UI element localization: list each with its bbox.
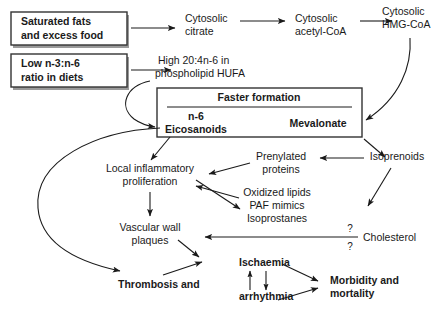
box-low-ratio-line1: Low n-3:n-6 <box>21 57 80 69</box>
box-saturated-fats-line2: and excess food <box>21 29 103 41</box>
node-morbidity-line2: mortality <box>330 287 375 299</box>
node-vascular-wall-plaques: Vascular wall plaques <box>119 221 180 246</box>
node-oxidized-lipids-line3: Isoprostanes <box>247 212 307 224</box>
node-arrhythmia-label: arrhythmia <box>239 290 293 302</box>
node-morbidity-mortality: Morbidity and mortality <box>330 274 399 299</box>
arrow-hufa-to-eicosanoids <box>126 81 155 127</box>
central-box-eicosanoids-line2: Eicosanoids <box>165 123 227 135</box>
central-box-header: Faster formation <box>218 91 301 103</box>
node-plaques-line1: Vascular wall <box>119 221 180 233</box>
arrow-prenylated-to-local-inflammatory <box>209 163 250 174</box>
box-saturated-fats: Saturated fats and excess food <box>11 12 129 48</box>
diagram-canvas: Saturated fats and excess food Low n-3:n… <box>0 0 440 310</box>
question-mark-above-cholesterol-line: ? <box>347 223 353 234</box>
node-cytosolic-citrate-line2: citrate <box>185 25 214 37</box>
node-isoprenoids: Isoprenoids <box>370 150 424 162</box>
central-box-faster-formation: Faster formation n-6 Eicosanoids Mevalon… <box>157 88 362 137</box>
arrow-isoprenoids-to-cholesterol <box>368 168 391 206</box>
node-cytosolic-hmg-coa: Cytosolic HMG-CoA <box>382 5 430 30</box>
node-hmgcoa-line1: Cytosolic <box>382 5 425 17</box>
node-oxidized-lipids-line1: Oxidized lipids <box>243 186 311 198</box>
node-cytosolic-citrate: Cytosolic citrate <box>185 12 228 37</box>
arrow-local-inflammatory-to-oxidized <box>196 180 240 209</box>
central-box-mevalonate: Mevalonate <box>289 117 346 129</box>
node-acetylcoa-line2: acetyl-CoA <box>295 25 346 37</box>
node-prenylated-line1: Prenylated <box>256 150 306 162</box>
node-cytosolic-acetyl-coa: Cytosolic acetyl-CoA <box>295 12 346 37</box>
question-mark-below-cholesterol-line: ? <box>347 241 353 252</box>
node-local-inflammatory-line2: proliferation <box>123 175 178 187</box>
node-prenylated-line2: proteins <box>262 163 299 175</box>
node-arrhythmia: arrhythmia <box>239 290 293 302</box>
node-cholesterol-label: Cholesterol <box>363 231 416 243</box>
node-local-inflammatory: Local inflammatory proliferation <box>106 162 195 187</box>
node-high-hufa-line2: phospholipid HUFA <box>155 67 245 79</box>
arrow-eicosanoids-to-local-inflammatory <box>151 137 170 160</box>
node-thrombosis: Thrombosis and <box>118 278 200 290</box>
node-hmgcoa-line2: HMG-CoA <box>382 18 430 30</box>
arrow-oxidized-to-local-inflammatory <box>196 186 239 198</box>
central-box-eicosanoids-line1: n-6 <box>188 110 204 122</box>
arrow-hmgcoa-to-mevalonate <box>366 38 410 120</box>
node-high-hufa: High 20:4n-6 in phospholipid HUFA <box>155 54 245 79</box>
node-oxidized-lipids-line2: PAF mimics <box>249 199 304 211</box>
node-ischaemia-label: Ischaemia <box>239 256 290 268</box>
box-low-ratio-line2: ratio in diets <box>21 71 84 83</box>
node-ischaemia: Ischaemia <box>239 256 290 268</box>
arrow-ischaemia-to-morbidity <box>282 264 318 281</box>
arrow-thrombosis-to-ischaemia <box>163 262 202 275</box>
node-local-inflammatory-line1: Local inflammatory <box>106 162 195 174</box>
node-plaques-line2: plaques <box>132 234 169 246</box>
node-oxidized-lipids: Oxidized lipids PAF mimics Isoprostanes <box>243 186 311 224</box>
arrow-plaques-to-ischaemia <box>178 240 199 257</box>
box-low-ratio: Low n-3:n-6 ratio in diets <box>11 54 129 90</box>
node-acetylcoa-line1: Cytosolic <box>295 12 338 24</box>
node-high-hufa-line1: High 20:4n-6 in <box>158 54 229 66</box>
node-thrombosis-label: Thrombosis and <box>118 278 200 290</box>
node-cholesterol: Cholesterol <box>363 231 416 243</box>
arrow-eicosanoids-to-thrombosis <box>38 128 160 271</box>
pathway-diagram-svg: Saturated fats and excess food Low n-3:n… <box>0 0 440 310</box>
node-cytosolic-citrate-line1: Cytosolic <box>185 12 228 24</box>
node-morbidity-line1: Morbidity and <box>330 274 399 286</box>
node-prenylated-proteins: Prenylated proteins <box>256 150 306 175</box>
node-isoprenoids-label: Isoprenoids <box>370 150 424 162</box>
box-saturated-fats-line1: Saturated fats <box>21 15 91 27</box>
